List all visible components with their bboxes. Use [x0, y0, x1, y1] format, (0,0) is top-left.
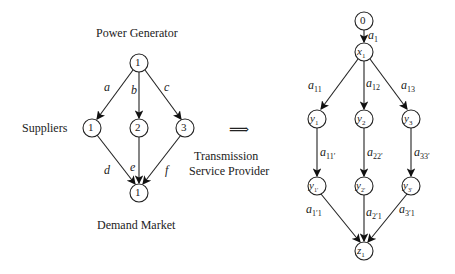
edge-label-c: c	[164, 80, 169, 95]
edge-label-a33-prime: a33′	[414, 145, 430, 161]
edge-label-a22-prime: a22′	[367, 145, 383, 161]
node-supplier-2: 2	[135, 121, 141, 133]
node-y3-prime: y3′	[403, 179, 412, 193]
node-z1: z1	[357, 244, 365, 259]
node-supplier-1: 1	[88, 121, 94, 133]
edge-label-a1: a1	[368, 28, 378, 44]
transmission-label: Transmission	[194, 149, 258, 164]
node-y2: y2	[357, 112, 365, 127]
node-y1: y1	[310, 112, 318, 127]
edge-label-a2p1: a2′1	[366, 205, 382, 221]
node-y2-prime: y2′	[356, 179, 365, 193]
diagram-canvas	[0, 0, 455, 274]
edge-label-a11-prime: a11′	[320, 145, 335, 161]
edge-label-a12: a12	[366, 76, 380, 92]
edge-label-a3p1: a3′1	[399, 202, 415, 218]
node-supplier-3: 3	[181, 121, 187, 133]
node-0: 0	[360, 14, 366, 26]
transform-arrow-icon: ⟹	[229, 121, 249, 138]
demand-market-label: Demand Market	[97, 218, 175, 233]
edge-label-b: b	[131, 83, 137, 98]
edge-label-f: f	[165, 163, 168, 178]
node-x1: x1	[357, 45, 365, 60]
edge-label-a: a	[104, 80, 110, 95]
suppliers-label: Suppliers	[22, 121, 67, 136]
edge-label-e: e	[130, 160, 135, 175]
node-demand: 1	[135, 186, 141, 198]
node-y3: y3	[404, 112, 412, 127]
edge-label-a13: a13	[401, 78, 415, 94]
power-generator-label: Power Generator	[96, 26, 178, 41]
service-provider-label: Service Provider	[189, 164, 269, 179]
edge-label-a1p1: a1′1	[306, 202, 322, 218]
node-y1-prime: y1′	[309, 179, 318, 193]
edge-label-a11: a11	[308, 78, 322, 94]
edge-label-d: d	[104, 163, 110, 178]
node-generator: 1	[135, 56, 141, 68]
